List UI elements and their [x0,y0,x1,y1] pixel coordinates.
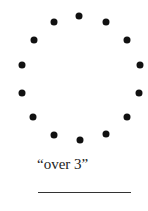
dot [51,132,58,139]
dot [19,90,26,97]
dot [136,90,143,97]
answer-blank-line [38,192,131,193]
dot [51,19,58,26]
dot [103,19,110,26]
dot [30,114,37,121]
dot [103,131,110,138]
dot [77,137,84,144]
dot [137,62,144,69]
dot [124,37,131,44]
dot [31,37,38,44]
dot [19,62,26,69]
dot [76,13,83,20]
caption-label: “over 3” [37,155,88,173]
dot [124,114,131,121]
